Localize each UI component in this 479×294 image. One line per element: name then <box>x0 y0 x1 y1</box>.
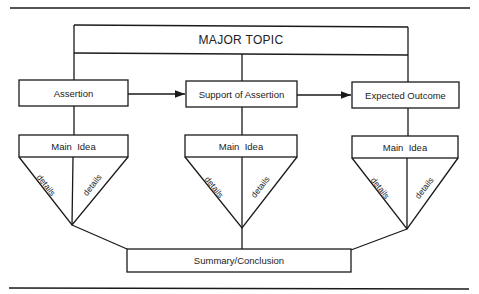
main-idea-label-3: Main Idea <box>352 136 458 158</box>
main-idea-label-2: Main Idea <box>185 135 297 157</box>
assertion-label: Assertion <box>19 80 128 106</box>
outcome-label: Expected Outcome <box>352 82 459 108</box>
support-label: Support of Assertion <box>186 81 297 107</box>
major-topic-bottom <box>74 53 408 55</box>
details-triangle-3 <box>352 158 458 229</box>
major-topic-label: MAJOR TOPIC <box>74 27 408 53</box>
main-idea-label-1: Main Idea <box>19 135 128 157</box>
bottom-rule <box>9 288 469 289</box>
summary-label: Summary/Conclusion <box>127 249 351 272</box>
details-triangle-2 <box>185 157 297 228</box>
